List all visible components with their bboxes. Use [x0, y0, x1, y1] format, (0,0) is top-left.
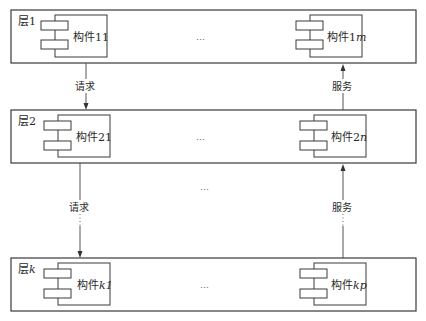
service-arrow-2-1: 服务 [332, 64, 352, 110]
component-port-icon [44, 121, 71, 130]
arrow-up-icon [341, 64, 346, 71]
component-port-icon [296, 21, 323, 30]
arrow-up-icon [341, 164, 346, 171]
component-port-icon [41, 40, 68, 49]
component-port-icon [300, 121, 327, 130]
component-port-icon [300, 269, 327, 278]
component-k1-label: 构件k1 [77, 278, 113, 292]
service-arrow-k-2: 服务 [332, 164, 352, 258]
component-port-icon [44, 289, 71, 298]
service-label: 服务 [332, 201, 352, 213]
layer-1: 层1 构件11 … 构件1m [11, 10, 416, 63]
layer-k-ellipsis: … [200, 280, 210, 290]
component-port-icon [44, 141, 71, 150]
layer-2: 层2 构件21 … 构件2n [11, 110, 416, 163]
component-11-label: 构件11 [73, 30, 109, 44]
component-port-icon [300, 289, 327, 298]
component-21-label: 构件21 [76, 130, 112, 144]
request-arrow-1-2: 请求 [75, 63, 95, 110]
between-layers-ellipsis: … [200, 182, 210, 192]
layer-1-ellipsis: … [196, 32, 206, 42]
layer-k-label: 层k [18, 263, 36, 276]
component-kp-label: 构件kp [331, 278, 367, 292]
arrow-down-icon [84, 103, 89, 110]
layer-2-label: 层2 [18, 115, 36, 128]
component-port-icon [296, 40, 323, 49]
request-arrow-2-k: 请求 [69, 163, 89, 258]
service-label: 服务 [332, 80, 352, 92]
request-label: 请求 [75, 80, 95, 92]
layered-architecture-diagram: 层1 构件11 … 构件1m 请求 服务 层2 [0, 0, 426, 321]
layer-k: 层k 构件k1 … 构件kp [11, 258, 416, 311]
component-2n-label: 构件2n [331, 130, 367, 144]
layer-2-ellipsis: … [196, 132, 206, 142]
arrow-down-icon [78, 251, 83, 258]
request-label: 请求 [69, 201, 89, 213]
layer-1-label: 层1 [18, 15, 36, 28]
component-port-icon [300, 141, 327, 150]
component-1m-label: 构件1m [327, 30, 366, 44]
component-port-icon [41, 21, 68, 30]
component-port-icon [44, 269, 71, 278]
